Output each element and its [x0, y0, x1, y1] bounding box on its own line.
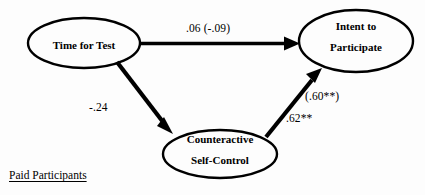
edge-time-to-counteractive[interactable]	[117, 62, 173, 134]
edge-label-time-to-counteractive: -.24	[89, 101, 108, 113]
node-ellipse-counteractive-self-control[interactable]	[163, 130, 277, 178]
edge-label-time-to-intent: .06 (-.09)	[186, 22, 230, 34]
arrow-head-time-to-intent	[284, 37, 300, 51]
figure-caption: Paid Participants	[9, 169, 87, 181]
edge-label-counteractive-to-intent-parenthetical: (.60**)	[305, 90, 339, 102]
node-ellipse-intent-to-participate[interactable]	[299, 10, 413, 72]
edge-counteractive-to-intent[interactable]	[266, 68, 322, 137]
arrow-head-counteractive-to-intent	[306, 68, 322, 83]
edge-label-counteractive-to-intent: .62**	[286, 112, 312, 124]
path-diagram: Time for Test Intent to Participate Coun…	[0, 0, 425, 195]
node-ellipse-time-for-test[interactable]	[28, 18, 140, 68]
edge-time-to-intent[interactable]	[140, 37, 300, 51]
